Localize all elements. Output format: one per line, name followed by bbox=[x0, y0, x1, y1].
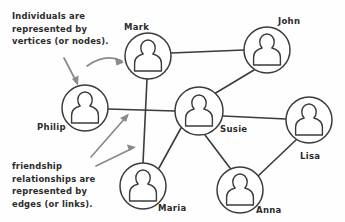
edge-susie-maria bbox=[159, 128, 181, 168]
node-label-text: Anna bbox=[256, 205, 282, 215]
annotation-vertices: Individuals are represented by vertices … bbox=[12, 10, 109, 48]
node-label-text: Susie bbox=[220, 124, 247, 134]
node-label-text: Maria bbox=[158, 203, 187, 213]
edge-mark-john bbox=[171, 50, 244, 53]
diagram-canvas: Mark John Philip Susie Lisa Maria Anna I… bbox=[0, 0, 345, 222]
node-label-text: Lisa bbox=[300, 151, 320, 161]
node-label-text: Mark bbox=[124, 22, 149, 32]
node-philip[interactable] bbox=[62, 85, 108, 131]
edge-philip-susie bbox=[108, 109, 175, 111]
edge-susie-anna bbox=[205, 135, 230, 168]
edge-anna-lisa bbox=[257, 139, 297, 177]
annotation-line: friendship bbox=[12, 160, 96, 173]
node-label-maria: Maria bbox=[158, 203, 187, 213]
annotation-line: relationships are bbox=[12, 173, 96, 186]
node-lisa[interactable] bbox=[286, 97, 332, 143]
edge-john-susie bbox=[214, 70, 254, 94]
annotation-line: Individuals are bbox=[12, 10, 109, 23]
edge-mark-maria bbox=[143, 79, 147, 163]
annotation-line: represented by bbox=[12, 23, 109, 36]
node-label-philip: Philip bbox=[37, 122, 66, 132]
edge-susie-lisa bbox=[223, 116, 286, 119]
node-john[interactable] bbox=[244, 27, 290, 73]
node-label-text: Philip bbox=[37, 122, 66, 132]
node-label-lisa: Lisa bbox=[300, 151, 320, 161]
node-label-john: John bbox=[278, 16, 300, 26]
node-label-susie: Susie bbox=[220, 124, 247, 134]
arrow-to-philip-icon bbox=[64, 58, 79, 86]
node-mark[interactable] bbox=[125, 33, 171, 79]
node-group bbox=[62, 27, 332, 213]
annotation-line: vertices (or nodes). bbox=[12, 35, 109, 48]
node-label-mark: Mark bbox=[124, 22, 149, 32]
node-label-text: John bbox=[278, 16, 300, 26]
annotation-edges: friendship relationships are represented… bbox=[12, 160, 96, 210]
node-label-anna: Anna bbox=[256, 205, 282, 215]
annotation-line: represented by bbox=[12, 185, 96, 198]
arrow-to-edge-mark-maria-icon bbox=[96, 145, 136, 167]
annotation-line: edges (or links). bbox=[12, 198, 96, 211]
node-susie[interactable] bbox=[175, 87, 223, 135]
arrow-to-mark-icon bbox=[87, 58, 124, 66]
